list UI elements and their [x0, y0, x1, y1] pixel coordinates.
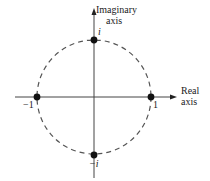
point-i — [91, 37, 98, 44]
point-neg-1-label: −1 — [23, 99, 34, 110]
point-neg-1 — [34, 94, 41, 101]
complex-plane-diagram: Imaginary axis Real axis i 1 −1 −i — [0, 0, 210, 181]
imaginary-axis-label-line1: Imaginary — [96, 4, 137, 15]
real-axis-arrow-icon — [170, 95, 177, 100]
real-axis-label-line1: Real — [181, 85, 200, 96]
real-axis-label-line2: axis — [181, 96, 197, 107]
imaginary-axis-label-line2: axis — [106, 15, 122, 26]
point-1-label: 1 — [153, 99, 158, 110]
point-neg-i-label: −i — [89, 158, 99, 169]
point-i-label: i — [98, 26, 101, 37]
